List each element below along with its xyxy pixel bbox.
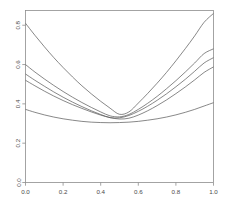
x-axis-ticks: 0.00.20.40.60.81.0 [21,183,218,196]
line-chart-plot: 0.00.20.40.60.81.0 0.00.20.40.60.8 [0,0,230,206]
x-tick-label: 0.6 [134,188,143,195]
data-curves [26,13,214,122]
curve-line [26,67,214,119]
y-tick-label: 0.8 [15,20,22,29]
curve-line [26,58,214,118]
plot-frame [26,11,214,183]
x-tick-label: 0.2 [59,188,68,195]
y-tick-label: 0.6 [15,60,22,69]
y-tick-label: 0.0 [15,178,22,187]
curve-line [26,13,214,114]
curve-line [26,49,214,117]
x-tick-label: 0.8 [172,188,181,195]
curve-line [26,103,214,123]
y-tick-label: 0.4 [15,99,22,108]
chart-figure: 0.00.20.40.60.81.0 0.00.20.40.60.8 [0,0,230,206]
y-axis-ticks: 0.00.20.40.60.8 [15,20,26,186]
y-tick-label: 0.2 [15,138,22,147]
x-tick-label: 0.0 [21,188,30,195]
x-tick-label: 0.4 [96,188,105,195]
x-tick-label: 1.0 [209,188,218,195]
